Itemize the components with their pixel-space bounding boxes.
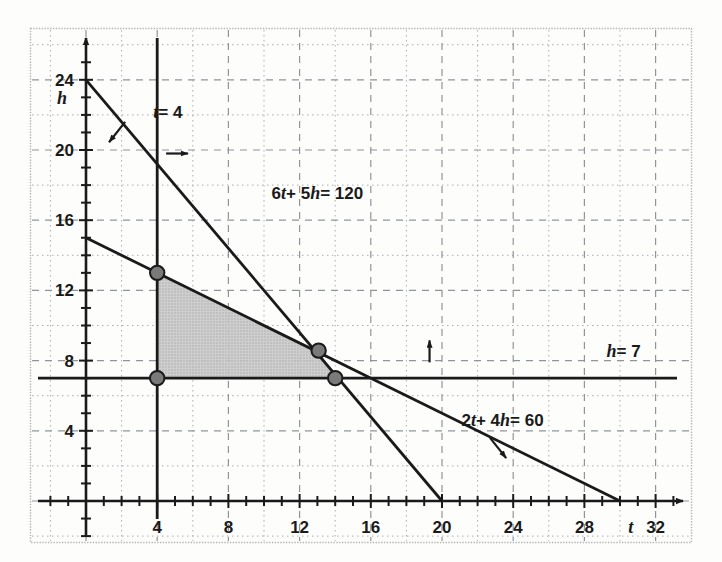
y-tick-label-8: 8 [65,352,74,371]
x-tick-label-28: 28 [575,518,594,537]
equation-label-0: 6t+ 5h= 120 [272,183,364,203]
y-tick-label-16: 16 [55,211,74,230]
equation-label-1: 2t+ 4h= 60 [461,410,543,430]
x-tick-label-20: 20 [433,518,452,537]
vertex-point-0 [150,266,164,280]
equation-labels: 6t+ 5h= 1202t+ 4h= 60t= 4h= 7 [153,102,640,429]
axes [38,38,683,536]
x-axis-label: t [628,517,634,537]
y-axis-label: h [57,88,67,108]
graph-figure: 48121620242832 4812162024 t h 6t+ 5h= 12… [0,0,722,562]
y-tick-label-24: 24 [55,71,74,90]
x-tick-label-12: 12 [290,518,309,537]
x-tick-label-24: 24 [504,518,523,537]
equation-label-3: h= 7 [606,341,640,361]
vertex-point-2 [328,371,342,385]
equation-label-2: t= 4 [153,102,183,122]
minor-gridlines [32,30,691,541]
vertex-point-1 [311,343,325,357]
coordinate-plane: 48121620242832 4812162024 t h 6t+ 5h= 12… [0,0,722,562]
x-tick-labels: 48121620242832 [152,518,665,537]
vertex-point-3 [150,371,164,385]
y-tick-label-20: 20 [55,141,74,160]
constraint-lines [38,38,677,519]
y-tick-label-4: 4 [65,422,75,441]
x-tick-label-8: 8 [224,518,233,537]
x-tick-label-16: 16 [361,518,380,537]
x-tick-label-4: 4 [152,518,162,537]
x-tick-label-32: 32 [646,518,665,537]
major-gridlines [32,30,691,541]
y-tick-label-12: 12 [55,281,74,300]
direction-arrow-0 [109,122,125,142]
